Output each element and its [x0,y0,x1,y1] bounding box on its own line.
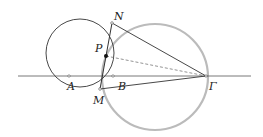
point-N [111,22,114,25]
label-N: N [113,10,124,23]
segment-N-gamma [112,23,206,76]
label-gamma: Γ [208,80,217,93]
point-M [99,88,102,91]
segment-M-gamma [100,76,206,89]
label-A: A [66,80,75,93]
label-B: B [117,80,126,93]
dashed-P-gamma [106,56,206,76]
small-circle [46,19,114,87]
label-P: P [94,42,103,55]
point-B [112,75,114,77]
point-P [104,54,108,58]
point-A [68,75,70,77]
label-M: M [92,94,105,107]
large-circle [102,24,208,130]
point-gamma [205,75,207,77]
geometry-diagram: N P A B M Γ [0,0,263,137]
